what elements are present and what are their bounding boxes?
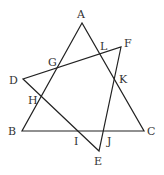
label-k: K <box>119 73 128 86</box>
label-l: L <box>100 40 108 53</box>
label-a: A <box>76 8 86 21</box>
label-e: E <box>94 155 102 168</box>
geometry-diagram: A B C D E F G H I J K L <box>0 0 164 175</box>
label-g: G <box>48 56 57 69</box>
label-c: C <box>147 125 155 138</box>
label-f: F <box>124 37 132 50</box>
label-j: J <box>106 135 111 148</box>
label-b: B <box>8 125 16 138</box>
label-d: D <box>9 74 18 87</box>
label-i: I <box>74 135 78 148</box>
label-h: H <box>28 94 38 107</box>
